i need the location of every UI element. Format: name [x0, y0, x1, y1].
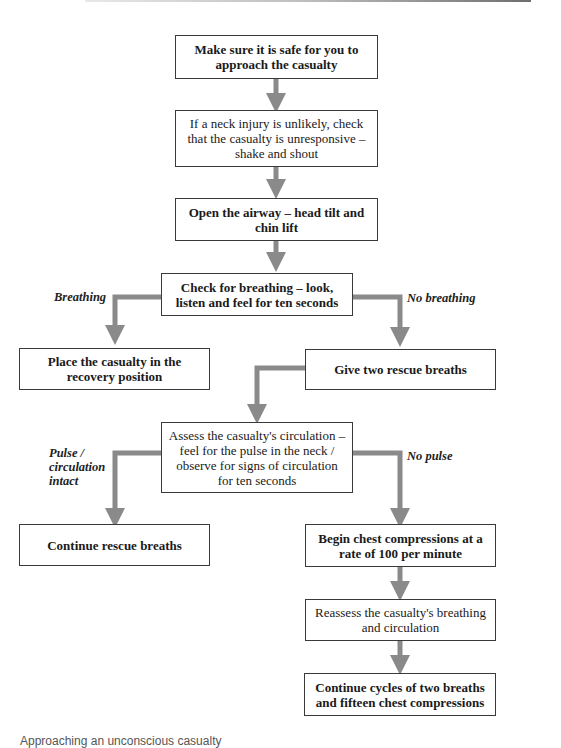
node-recovery-position: Place the casualty in the recovery posit…: [19, 348, 210, 390]
node-reassess: Reassess the casualty's breathing and ci…: [305, 599, 496, 641]
node-text: Check for breathing – look, listen and f…: [168, 280, 346, 310]
node-text: Assess the casualty's circulation – feel…: [168, 428, 346, 488]
node-text: Place the casualty in the recovery posit…: [26, 354, 203, 384]
caption-partial: Approaching an unconscious casualty: [20, 734, 221, 748]
node-text: Make sure it is safe for you to approach…: [182, 42, 371, 72]
node-text: Continue rescue breaths: [47, 538, 182, 553]
arrow-icon: [353, 453, 400, 518]
node-continue-cycles: Continue cycles of two breaths and fifte…: [304, 673, 496, 716]
arrow-icon: [353, 297, 400, 337]
label-breathing: Breathing: [54, 290, 106, 304]
node-chest-compressions: Begin chest compressions at a rate of 10…: [305, 524, 496, 567]
label-no-pulse: No pulse: [407, 449, 453, 463]
node-check-breathing: Check for breathing – look, listen and f…: [161, 273, 353, 316]
node-rescue-breaths: Give two rescue breaths: [305, 349, 496, 390]
arrow-icon: [115, 453, 161, 518]
node-text: Begin chest compressions at a rate of 10…: [312, 531, 489, 561]
node-text: Give two rescue breaths: [334, 362, 467, 377]
label-no-breathing: No breathing: [407, 291, 475, 305]
label-pulse-intact: Pulse / circulation intact: [49, 446, 119, 488]
node-text: Reassess the casualty's breathing and ci…: [312, 605, 489, 635]
node-text: Continue cycles of two breaths and fifte…: [311, 680, 489, 710]
node-continue-rescue-breaths: Continue rescue breaths: [19, 524, 210, 566]
node-responsive: If a neck injury is unlikely, check that…: [175, 110, 378, 167]
node-text: If a neck injury is unlikely, check that…: [182, 116, 371, 161]
node-text: Open the airway – head tilt and chin lif…: [182, 205, 371, 235]
node-open-airway: Open the airway – head tilt and chin lif…: [175, 198, 378, 241]
arrow-icon: [115, 297, 161, 335]
node-assess-circulation: Assess the casualty's circulation – feel…: [161, 422, 353, 493]
arrow-icon: [257, 368, 305, 414]
node-safe: Make sure it is safe for you to approach…: [175, 35, 378, 79]
